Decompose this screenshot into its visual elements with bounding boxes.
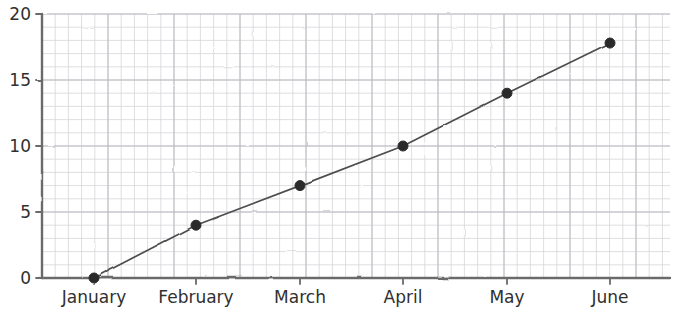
data-point xyxy=(605,38,615,48)
y-tick-label: 5 xyxy=(20,202,31,222)
x-tick-label: April xyxy=(384,287,423,307)
x-tick-label: February xyxy=(158,287,233,307)
line-chart: 05101520 JanuaryFebruaryMarchAprilMayJun… xyxy=(0,0,683,312)
data-point xyxy=(89,273,99,283)
chart-canvas: 05101520 JanuaryFebruaryMarchAprilMayJun… xyxy=(0,0,683,312)
data-point xyxy=(191,220,201,230)
x-tick-label: March xyxy=(274,287,326,307)
data-point xyxy=(295,181,305,191)
y-tick-label: 10 xyxy=(9,136,31,156)
data-point xyxy=(398,141,408,151)
x-tick-label: January xyxy=(61,287,126,307)
chart-background xyxy=(0,0,683,312)
y-tick-label: 20 xyxy=(9,4,31,24)
y-tick-label: 0 xyxy=(20,268,31,288)
x-tick-label: June xyxy=(590,287,628,307)
data-point xyxy=(502,88,512,98)
x-tick-label: May xyxy=(489,287,524,307)
y-tick-label: 15 xyxy=(9,70,31,90)
